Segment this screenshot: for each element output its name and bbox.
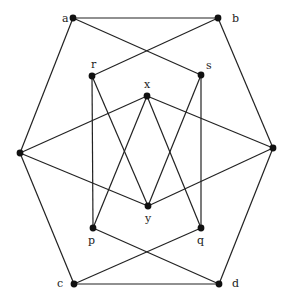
vertex-label-b: b (232, 12, 239, 25)
edge-z-d (219, 148, 273, 284)
vertex-x (144, 93, 151, 100)
vertex-r (89, 73, 96, 80)
vertex-label-q: q (197, 234, 204, 247)
vertex-y (145, 203, 152, 210)
edge-r-p (92, 76, 93, 228)
vertex-c (71, 281, 78, 288)
vertex-b (215, 15, 222, 22)
edge-s-y (148, 75, 201, 206)
vertex-label-d: d (232, 277, 239, 290)
vertex-label-y: y (144, 212, 152, 225)
vertex-z (270, 145, 277, 152)
vertex-label-x: x (144, 78, 151, 91)
vertex-label-a: a (62, 12, 69, 25)
vertex-a (70, 15, 77, 22)
edge-layer (20, 18, 273, 284)
node-layer (17, 15, 277, 288)
vertex-label-r: r (91, 58, 97, 71)
vertex-label-p: p (88, 234, 95, 247)
vertex-p (90, 225, 97, 232)
edge-x-q (147, 96, 201, 228)
vertex-label-s: s (206, 59, 212, 72)
graph-diagram: abrsxypqcd (0, 0, 289, 299)
vertex-s (198, 72, 205, 79)
vertex-q (198, 225, 205, 232)
edge-z-y (148, 148, 273, 206)
vertex-w (17, 150, 24, 157)
vertex-label-c: c (57, 277, 63, 290)
edge-b-r (92, 18, 218, 76)
label-layer: abrsxypqcd (57, 12, 239, 290)
edge-x-p (93, 96, 147, 228)
vertex-d (216, 281, 223, 288)
